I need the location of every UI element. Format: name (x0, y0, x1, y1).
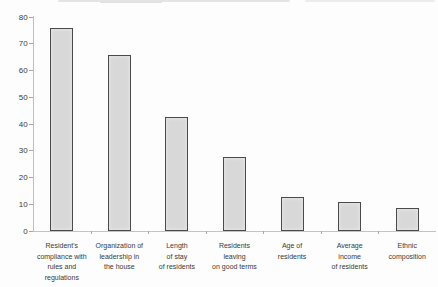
y-tick-label: 10 (0, 200, 28, 209)
cropped-text-artifact (58, 0, 290, 2)
y-tick-label: 80 (0, 13, 28, 22)
category-tick (263, 231, 264, 234)
bar (108, 55, 131, 231)
category-tick (206, 231, 207, 234)
category-label: Ethnic composition (369, 241, 438, 262)
y-tick-label: 40 (0, 120, 28, 129)
y-tick-label: 50 (0, 93, 28, 102)
y-axis-line (33, 16, 34, 231)
y-tick-mark (29, 70, 33, 71)
cropped-text-artifact (100, 2, 162, 3)
y-tick-mark (29, 177, 33, 178)
bar (338, 202, 361, 231)
y-tick-mark (29, 204, 33, 205)
bar (223, 157, 246, 231)
y-tick-label: 30 (0, 146, 28, 155)
bar (396, 208, 419, 231)
bar (50, 28, 73, 231)
category-tick (91, 231, 92, 234)
x-axis-line (33, 231, 436, 232)
y-tick-mark (29, 150, 33, 151)
y-tick-mark (29, 97, 33, 98)
bar (165, 117, 188, 231)
cropped-text-artifact (305, 0, 435, 2)
y-tick-mark (29, 43, 33, 44)
bar (281, 197, 304, 231)
y-tick-mark (29, 124, 33, 125)
bar-chart-figure: 01020304050607080Resident's compliance w… (0, 0, 438, 287)
y-tick-label: 70 (0, 39, 28, 48)
category-tick (321, 231, 322, 234)
category-tick (378, 231, 379, 234)
category-tick (148, 231, 149, 234)
y-tick-label: 0 (0, 227, 28, 236)
plot-area: 01020304050607080Resident's compliance w… (33, 17, 436, 231)
y-tick-mark (29, 17, 33, 18)
y-tick-label: 20 (0, 173, 28, 182)
y-tick-label: 60 (0, 66, 28, 75)
y-tick-mark (29, 231, 33, 232)
